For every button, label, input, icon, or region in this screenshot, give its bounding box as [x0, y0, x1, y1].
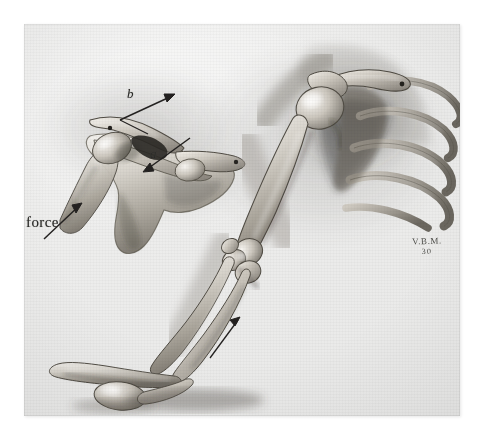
sternoclavicular-marker	[400, 82, 405, 87]
force-label: force	[26, 214, 59, 231]
vector-a-label: a	[150, 146, 157, 162]
illustration-plate: force a b V.B.M. 30	[0, 0, 486, 436]
artwork-paper: force a b V.B.M. 30	[24, 24, 460, 416]
ac-joint-marker-b	[108, 126, 112, 130]
artist-signature: V.B.M. 30	[396, 236, 458, 256]
figure-superior-view	[24, 24, 460, 416]
signature-initials: V.B.M.	[396, 235, 458, 247]
vector-b-label: b	[127, 86, 134, 102]
signature-year: 30	[396, 246, 458, 256]
